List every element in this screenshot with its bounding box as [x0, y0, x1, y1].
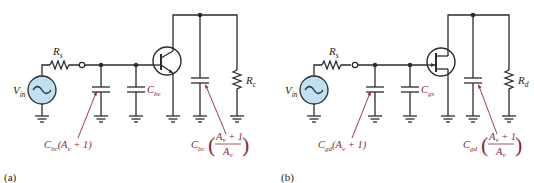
svg-text:Cgd: Cgd	[463, 139, 478, 153]
panel-b-fet-circuit: Vin Rs Cgs	[281, 13, 529, 183]
rs-label: Rs	[52, 45, 63, 60]
rs-label: Rs	[328, 45, 339, 60]
ground-icon	[166, 116, 180, 122]
svg-text:Av: Av	[222, 146, 233, 159]
ground-icon	[441, 116, 455, 122]
ground-icon	[230, 116, 244, 122]
svg-text:Av: Av	[495, 146, 506, 159]
ground-icon	[466, 116, 480, 122]
ground-icon	[368, 116, 382, 122]
ground-icon	[502, 116, 516, 122]
cgs-label: Cgs	[421, 84, 435, 98]
input-terminal	[352, 62, 357, 67]
ac-voltage-source-icon	[28, 76, 56, 104]
svg-text:): )	[242, 132, 249, 157]
ac-voltage-source-icon	[300, 76, 328, 104]
ground-icon	[94, 116, 108, 122]
output-miller-cap-label: Cbc ( Av + 1 Av )	[191, 131, 249, 159]
ground-icon	[129, 116, 143, 122]
input-miller-cap-label: Cbc(Av + 1)	[44, 139, 92, 153]
output-miller-cap-label: Cgd ( Av + 1 Av )	[463, 131, 522, 159]
input-terminal	[79, 62, 84, 67]
svg-text:Av + 1: Av + 1	[488, 131, 516, 144]
source-label: Vin	[13, 84, 26, 99]
svg-text:Av + 1: Av + 1	[215, 131, 243, 144]
svg-text:(: (	[208, 132, 215, 157]
panel-a-bjt-circuit: Vin Rs Cbe	[4, 13, 257, 183]
input-miller-cap-label: Cgd(Av + 1)	[318, 139, 367, 153]
source-label: Vin	[285, 84, 298, 99]
ground-icon	[35, 116, 49, 122]
resistor-icon	[50, 61, 79, 69]
ground-icon	[307, 116, 321, 122]
bjt-transistor-icon	[153, 47, 181, 75]
svg-text:Cbc: Cbc	[191, 139, 206, 153]
ground-icon	[403, 116, 417, 122]
resistor-icon	[233, 70, 241, 116]
resistor-icon	[505, 70, 513, 116]
fet-transistor-icon	[427, 48, 455, 76]
svg-text:): )	[515, 132, 522, 157]
cbe-label: Cbe	[147, 84, 161, 98]
svg-text:(: (	[481, 132, 488, 157]
miller-equivalent-circuits: Vin Rs Cbe	[0, 0, 534, 183]
panel-label-b: (b)	[281, 171, 294, 183]
rc-label: Rc	[245, 74, 257, 89]
panel-label-a: (a)	[4, 171, 17, 183]
rd-label: Rd	[517, 74, 529, 89]
resistor-icon	[322, 61, 351, 69]
ground-icon	[193, 116, 207, 122]
